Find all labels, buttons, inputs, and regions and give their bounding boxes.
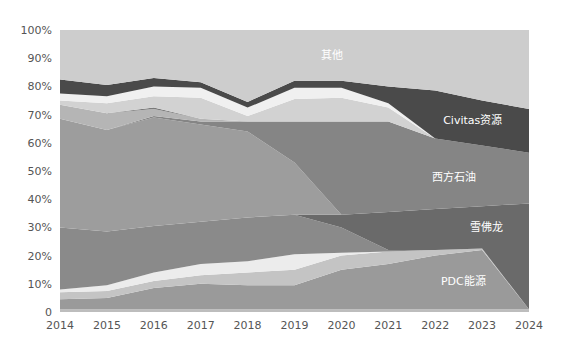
x-tick-label: 2019	[281, 319, 309, 332]
x-tick-label: 2021	[374, 319, 402, 332]
y-tick-label: 30%	[28, 221, 52, 234]
y-tick-label: 10%	[28, 278, 52, 291]
x-tick-label: 2015	[93, 319, 121, 332]
y-tick-label: 100%	[21, 24, 52, 37]
series-label: 雪佛龙	[470, 221, 503, 234]
y-tick-label: 40%	[28, 193, 52, 206]
y-tick-label: 60%	[28, 137, 52, 150]
x-tick-label: 2023	[468, 319, 496, 332]
x-axis: 2014201520162017201820192020202120222023…	[46, 319, 543, 332]
x-tick-label: 2022	[421, 319, 449, 332]
y-tick-label: 0	[45, 306, 52, 319]
y-axis: 010%20%30%40%50%60%70%80%90%100%	[21, 24, 52, 319]
x-tick-label: 2016	[140, 319, 168, 332]
series-label: 其他	[321, 49, 343, 62]
x-tick-label: 2017	[187, 319, 215, 332]
y-tick-label: 80%	[28, 80, 52, 93]
y-tick-label: 20%	[28, 250, 52, 263]
stacked-area-chart: 010%20%30%40%50%60%70%80%90%100% 2014201…	[0, 0, 570, 349]
series-label: 西方石油	[432, 170, 476, 184]
x-tick-label: 2020	[327, 319, 355, 332]
y-tick-label: 50%	[28, 165, 52, 178]
series-label: PDC能源	[441, 274, 486, 288]
x-tick-label: 2018	[234, 319, 262, 332]
y-tick-label: 70%	[28, 109, 52, 122]
y-tick-label: 90%	[28, 52, 52, 65]
series-label: Civitas资源	[443, 113, 502, 127]
area-0	[60, 309, 529, 312]
x-tick-label: 2014	[46, 319, 74, 332]
x-tick-label: 2024	[515, 319, 543, 332]
